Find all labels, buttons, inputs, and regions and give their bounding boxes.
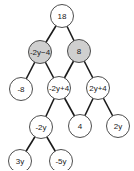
tree-node: -2y+4 xyxy=(48,77,71,100)
node-label: -8 xyxy=(17,85,25,94)
tree-node: 4 xyxy=(69,115,92,138)
node-label: -2y xyxy=(35,123,46,132)
node-label: 3y xyxy=(16,157,24,166)
tree-node: -5y xyxy=(50,150,73,171)
tree-node: -2y xyxy=(30,116,53,139)
tree-node: 2y+4 xyxy=(87,77,110,100)
node-label: 4 xyxy=(78,122,83,131)
tree-node: -2y−4 xyxy=(29,41,52,64)
tree-node: 2y xyxy=(107,115,130,138)
node-label: 2y+4 xyxy=(89,84,107,93)
tree-node: 3y xyxy=(9,150,32,171)
node-label: -2y+4 xyxy=(49,84,70,93)
node-label: 2y xyxy=(114,122,122,131)
node-label: 18 xyxy=(58,12,67,21)
pyramid-tree-diagram: 18-2y−48-8-2y+42y+4-2y42y3y-5y xyxy=(0,0,134,170)
node-label: 8 xyxy=(77,47,82,56)
node-label: -2y−4 xyxy=(30,48,51,57)
tree-node: -8 xyxy=(10,78,33,101)
node-label: -5y xyxy=(55,157,66,166)
tree-node: 8 xyxy=(68,40,91,63)
tree-node: 18 xyxy=(51,5,74,28)
